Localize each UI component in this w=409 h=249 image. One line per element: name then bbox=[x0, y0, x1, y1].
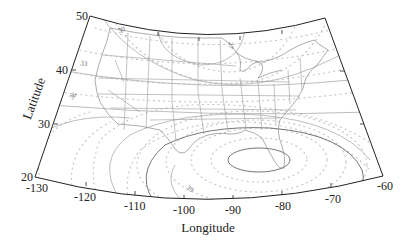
lon-label: -110 bbox=[124, 199, 146, 213]
lon-label: -100 bbox=[173, 203, 195, 217]
lat-label: 20 bbox=[21, 170, 33, 184]
contour-label: 33 bbox=[80, 59, 89, 68]
lat-label: 40 bbox=[56, 63, 68, 77]
lon-label: -80 bbox=[275, 199, 291, 213]
lat-label: 30 bbox=[38, 117, 50, 131]
contour-label: 39 bbox=[185, 183, 196, 194]
dotted-contours bbox=[39, 15, 380, 240]
contour-labels: 30 33 36 27 39 bbox=[68, 25, 235, 195]
y-axis-title: Latitude bbox=[19, 75, 48, 121]
contour-label: 36 bbox=[68, 90, 79, 101]
lat-label: 50 bbox=[76, 9, 88, 23]
lon-label: -70 bbox=[325, 192, 341, 206]
map-content bbox=[30, 14, 380, 240]
map-figure: -130 -120 -110 -100 -90 -80 -70 -60 20 3… bbox=[0, 0, 409, 249]
lon-label: -90 bbox=[225, 203, 241, 217]
x-axis-title: Longitude bbox=[181, 220, 235, 235]
longitude-labels: -130 -120 -110 -100 -90 -80 -70 -60 bbox=[26, 179, 393, 217]
contour-label: 27 bbox=[227, 42, 235, 50]
lon-label: -120 bbox=[74, 190, 96, 204]
lon-label: -60 bbox=[377, 179, 393, 193]
us-outline bbox=[95, 28, 328, 168]
contour-label: 30 bbox=[117, 25, 127, 35]
